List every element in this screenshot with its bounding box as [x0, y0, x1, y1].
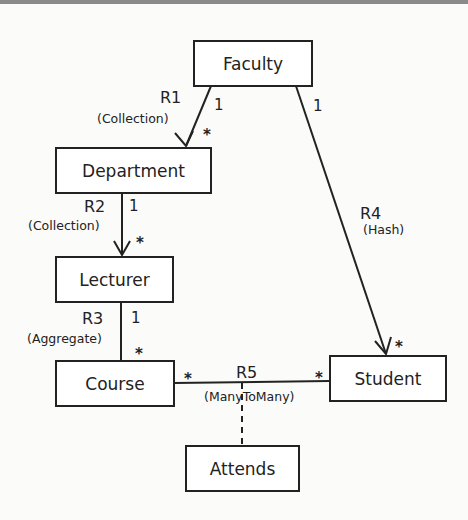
- r4-to-mult: *: [395, 338, 403, 356]
- class-lecturer: Lecturer: [55, 256, 174, 303]
- r1-from-mult: 1: [214, 96, 224, 114]
- r3-from-mult: 1: [131, 309, 141, 327]
- r5-type: (ManyToMany): [204, 389, 294, 404]
- class-department: Department: [55, 147, 212, 194]
- r4-name: R4: [360, 204, 381, 223]
- r5-name: R5: [236, 363, 257, 382]
- class-faculty: Faculty: [193, 40, 313, 87]
- r2-type: (Collection): [28, 218, 100, 233]
- class-attends: Attends: [185, 445, 300, 492]
- r5-from-mult: *: [184, 370, 192, 388]
- r3-type: (Aggregate): [27, 331, 102, 346]
- r1-type: (Collection): [97, 111, 169, 126]
- class-course: Course: [55, 360, 175, 407]
- r2-to-mult: *: [136, 234, 144, 252]
- r4-from-mult: 1: [313, 97, 323, 115]
- r3-to-mult: *: [135, 345, 143, 363]
- r2-from-mult: 1: [129, 197, 139, 215]
- r1-to-mult: *: [203, 126, 211, 144]
- r3-name: R3: [82, 309, 103, 328]
- r4-type: (Hash): [363, 222, 404, 237]
- r1-name: R1: [160, 88, 181, 107]
- class-student: Student: [329, 355, 447, 402]
- r2-name: R2: [84, 197, 105, 216]
- r5-to-mult: *: [315, 369, 323, 387]
